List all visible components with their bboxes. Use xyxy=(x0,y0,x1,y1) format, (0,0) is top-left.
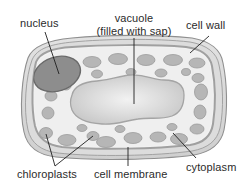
chloroplast xyxy=(97,137,116,148)
chloroplast xyxy=(167,124,177,131)
chloroplast xyxy=(58,135,76,146)
chloroplast xyxy=(190,124,204,134)
chloroplast xyxy=(182,69,191,76)
chloroplast xyxy=(194,105,206,119)
chloroplast xyxy=(164,55,183,66)
chloroplast xyxy=(40,128,53,139)
chloroplast xyxy=(189,58,205,68)
chloroplast xyxy=(42,107,54,119)
label-vacuole: vacuole (filled with sap) xyxy=(96,12,171,37)
chloroplast xyxy=(115,126,125,133)
chloroplast xyxy=(150,132,166,142)
chloroplast xyxy=(195,84,208,100)
vacuole-shape xyxy=(71,75,185,124)
chloroplast xyxy=(92,70,103,78)
label-cell-membrane: cell membrane xyxy=(94,168,167,181)
label-cell-wall: cell wall xyxy=(186,19,225,32)
label-nucleus: nucleus xyxy=(20,17,59,30)
plant-cell-diagram: nucleus vacuole (filled with sap) cell w… xyxy=(0,0,246,194)
chloroplast xyxy=(124,133,142,144)
label-cytoplasm: cytoplasm xyxy=(186,161,236,174)
label-vacuole-line2: (filled with sap) xyxy=(96,25,171,38)
chloroplast xyxy=(137,55,155,66)
chloroplast xyxy=(83,57,101,68)
label-vacuole-line1: vacuole xyxy=(96,12,171,25)
chloroplast xyxy=(155,69,167,77)
chloroplast xyxy=(77,125,87,132)
label-chloroplasts: chloroplasts xyxy=(17,168,77,181)
chloroplast xyxy=(192,74,204,83)
chloroplast xyxy=(109,54,128,65)
